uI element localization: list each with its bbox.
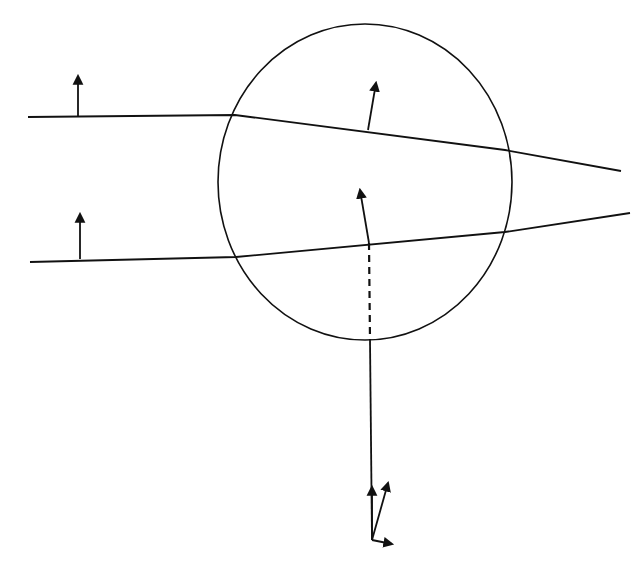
triad-oblique-arrow-icon <box>372 483 388 540</box>
upper-ray <box>28 115 621 171</box>
ray-diagram <box>0 0 641 567</box>
triad-horizontal-arrow-icon <box>372 540 392 544</box>
center-arrow-icon <box>360 190 369 243</box>
lens-circle <box>218 24 512 340</box>
diagram-canvas <box>0 0 641 567</box>
upper-refracted-arrow-icon <box>368 83 376 130</box>
lower-ray <box>30 213 630 262</box>
dashed-line <box>369 243 370 340</box>
vertical-line <box>370 340 372 540</box>
